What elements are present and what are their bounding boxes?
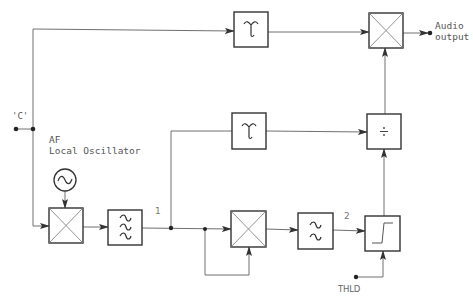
delay-middle-block[interactable] <box>232 113 266 149</box>
threshold-label: THLD <box>338 284 360 294</box>
mixer-2-block[interactable] <box>231 211 266 247</box>
input-junction <box>31 127 36 132</box>
line-thld-to-threshold <box>356 251 383 277</box>
node-2-label: 2 <box>344 211 350 221</box>
line-bandpass-to-mixer-2 <box>142 228 231 229</box>
output-terminal[interactable] <box>428 31 433 36</box>
delay-top-block[interactable] <box>234 12 268 47</box>
line-node1-to-delay-middle <box>171 131 232 228</box>
block-diagram: 'C' AF Local Oscillator 1 2 THLD Audio o… <box>0 0 473 301</box>
oscillator-label: AF Local Oscillator <box>49 134 141 156</box>
divider-block[interactable] <box>367 114 401 149</box>
node-1-junction <box>169 226 173 230</box>
line-to-mixer-1 <box>33 29 49 226</box>
line-delay-middle-to-divider <box>266 131 367 132</box>
line-mixer-2-to-lowpass <box>266 229 298 230</box>
oscillator-block[interactable] <box>54 169 76 191</box>
input-label: 'C' <box>12 111 28 122</box>
loop-junction <box>203 227 207 231</box>
thld-terminal[interactable] <box>354 275 358 279</box>
output-mixer-block[interactable] <box>369 13 403 48</box>
line-to-delay-top <box>33 29 234 31</box>
lowpass-filter-block[interactable] <box>298 213 333 249</box>
threshold-block[interactable] <box>365 216 400 251</box>
node-1-label: 1 <box>155 206 161 216</box>
input-terminal[interactable] <box>14 127 19 132</box>
audio-output-label: Audio output <box>435 20 469 42</box>
line-lowpass-to-threshold <box>333 230 365 231</box>
mixer-1-block[interactable] <box>49 208 83 243</box>
bandpass-filter-block[interactable] <box>108 210 142 245</box>
